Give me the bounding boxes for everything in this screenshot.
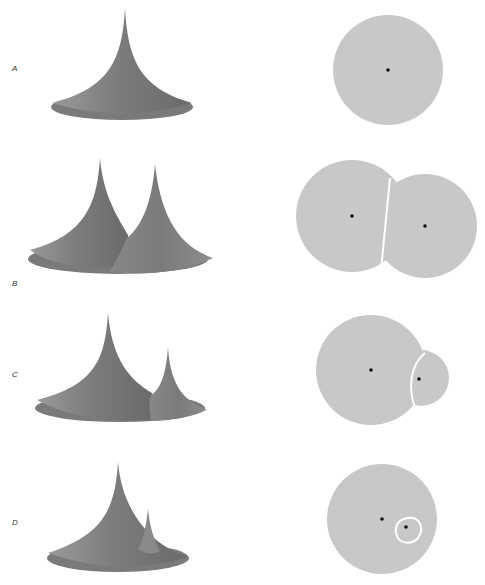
domains-c: [316, 315, 449, 425]
domain-a: [333, 15, 443, 125]
domains-b: [296, 160, 477, 278]
cone-a: [51, 8, 193, 120]
cones-c: [35, 313, 207, 422]
cones-d: [47, 462, 189, 572]
center-dot-a: [386, 68, 390, 72]
domain-d: [327, 464, 437, 574]
figure-canvas: [0, 0, 485, 585]
cones-b: [28, 158, 213, 274]
